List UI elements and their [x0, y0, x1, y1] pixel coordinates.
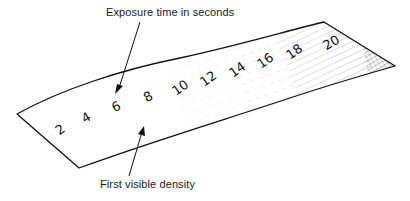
- test-strip-drawing: [0, 0, 410, 201]
- caption-first-visible-density: First visible density: [100, 178, 195, 190]
- arrow-exposure-time: [115, 22, 140, 94]
- caption-exposure-time: Exposure time in seconds: [106, 6, 234, 18]
- arrow-first-visible-density: [129, 126, 145, 176]
